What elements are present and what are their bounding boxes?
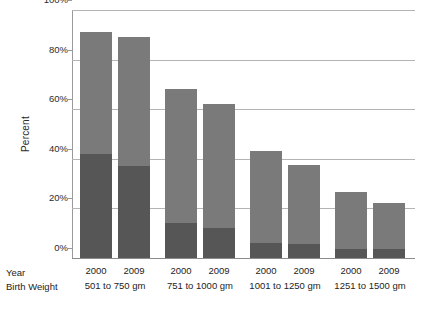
x-group-751-to-1000-gm: 20002009751 to 1000 gm <box>151 264 249 296</box>
y-tick-mark-100 <box>68 0 72 1</box>
x-tick-year-2009: 2009 <box>199 264 239 278</box>
gridline-0 <box>72 258 415 259</box>
x-tick-year-2009: 2009 <box>114 264 154 278</box>
y-tick-label-80: 80% <box>36 45 68 55</box>
bar-segment-upper <box>373 203 405 249</box>
bar-751-to-1000-gm-2000 <box>165 89 197 258</box>
y-tick-label-0: 0% <box>36 243 68 253</box>
bar-segment-lower <box>203 228 235 258</box>
bar-segment-upper <box>250 151 282 243</box>
x-tick-year-2009: 2009 <box>369 264 409 278</box>
x-tick-birth-weight-range: 751 to 1000 gm <box>151 279 249 293</box>
x-group-years: 20002009 <box>321 264 419 278</box>
bar-segment-lower <box>165 223 197 258</box>
bar-501-to-750-gm-2009 <box>118 37 150 258</box>
axis-row-title-birth-weight: Birth Weight <box>6 280 72 293</box>
x-group-501-to-750-gm: 20002009501 to 750 gm <box>66 264 164 296</box>
bar-segment-upper <box>80 32 112 154</box>
bar-1251-to-1500-gm-2009 <box>373 203 405 258</box>
x-tick-birth-weight-range: 501 to 750 gm <box>66 279 164 293</box>
y-tick-label-20: 20% <box>36 193 68 203</box>
x-tick-year-2000: 2000 <box>246 264 286 278</box>
x-tick-year-2000: 2000 <box>161 264 201 278</box>
gridline-100 <box>72 10 415 11</box>
y-axis-ticks: 100%80%60%40%20%0% <box>30 0 68 248</box>
x-tick-year-2009: 2009 <box>284 264 324 278</box>
bar-segment-lower <box>335 249 367 258</box>
plot-area <box>72 10 415 258</box>
x-group-1251-to-1500-gm: 200020091251 to 1500 gm <box>321 264 419 296</box>
bar-segment-upper <box>165 89 197 223</box>
bar-segment-upper <box>203 104 235 228</box>
x-tick-birth-weight-range: 1251 to 1500 gm <box>321 279 419 293</box>
bar-segment-upper <box>118 37 150 166</box>
y-tick-label-60: 60% <box>36 94 68 104</box>
y-tick-label-100: 100% <box>36 0 68 5</box>
bar-segment-upper <box>288 165 320 244</box>
bar-segment-lower <box>288 244 320 258</box>
x-group-years: 20002009 <box>66 264 164 278</box>
x-tick-birth-weight-range: 1001 to 1250 gm <box>236 279 334 293</box>
bar-501-to-750-gm-2000 <box>80 32 112 258</box>
bar-1251-to-1500-gm-2000 <box>335 192 367 258</box>
x-group-years: 20002009 <box>151 264 249 278</box>
bar-segment-upper <box>335 192 367 249</box>
y-tick-label-40: 40% <box>36 144 68 154</box>
bar-segment-lower <box>373 249 405 258</box>
x-group-1001-to-1250-gm: 200020091001 to 1250 gm <box>236 264 334 296</box>
bar-1001-to-1250-gm-2009 <box>288 165 320 258</box>
bar-751-to-1000-gm-2009 <box>203 104 235 258</box>
y-axis-line <box>72 10 73 258</box>
bar-segment-lower <box>118 166 150 258</box>
axis-row-title-year: Year <box>6 266 72 279</box>
stacked-bar-chart: Percent 100%80%60%40%20%0% Year Birth We… <box>0 0 423 309</box>
bar-segment-lower <box>250 243 282 258</box>
x-tick-year-2000: 2000 <box>76 264 116 278</box>
x-group-years: 20002009 <box>236 264 334 278</box>
bar-segment-lower <box>80 154 112 258</box>
x-tick-year-2000: 2000 <box>331 264 371 278</box>
bar-1001-to-1250-gm-2000 <box>250 151 282 258</box>
